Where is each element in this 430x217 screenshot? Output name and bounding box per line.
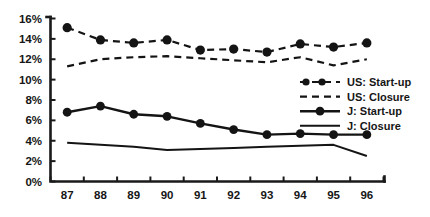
legend-item: J: Closure	[300, 120, 401, 132]
legend-marker-dot	[318, 78, 325, 85]
legend-marker-dot	[316, 107, 325, 116]
x-tick-label: 92	[227, 189, 240, 201]
x-tick-label: 88	[94, 189, 107, 201]
legend-item: US: Closure	[300, 91, 410, 103]
data-point-marker	[296, 129, 305, 138]
data-point-marker	[129, 38, 138, 47]
legend-item: US: Start-up	[300, 76, 411, 88]
data-point-marker	[329, 42, 338, 51]
data-point-marker	[362, 38, 371, 47]
y-tick-label: 14%	[19, 33, 42, 45]
x-tick-label: 94	[294, 189, 307, 201]
series-line	[67, 143, 367, 156]
y-tick-label: 12%	[19, 53, 42, 65]
y-axis-tick-labels: 0%2%4%6%8%10%12%14%16%	[19, 13, 42, 188]
series-line	[67, 28, 367, 52]
series-j-closure	[67, 143, 367, 156]
y-tick-label: 2%	[25, 155, 42, 167]
x-tick-label: 90	[161, 189, 174, 201]
legend-label: J: Closure	[347, 120, 401, 132]
data-point-marker	[263, 130, 272, 139]
chart-container: 0%2%4%6%8%10%12%14%16% 87888990919293949…	[0, 0, 430, 217]
line-chart: 0%2%4%6%8%10%12%14%16% 87888990919293949…	[0, 0, 430, 217]
data-point-marker	[129, 110, 138, 119]
series-group	[63, 23, 372, 156]
legend-item: J: Start-up	[300, 105, 402, 117]
data-point-marker	[96, 35, 105, 44]
data-point-marker	[163, 112, 172, 121]
data-point-marker	[229, 125, 238, 134]
y-tick-label: 6%	[25, 114, 42, 126]
series-line	[67, 56, 367, 66]
x-tick-label: 91	[194, 189, 207, 201]
legend-label: US: Start-up	[347, 76, 411, 88]
data-point-marker	[63, 23, 72, 32]
series-j-start-up	[63, 102, 372, 139]
data-point-marker	[296, 39, 305, 48]
data-point-marker	[262, 48, 271, 57]
legend-label: J: Start-up	[347, 105, 402, 117]
y-tick-label: 8%	[25, 94, 42, 106]
data-point-marker	[196, 119, 205, 128]
x-tick-label: 95	[327, 189, 340, 201]
x-tick-label: 93	[261, 189, 274, 201]
legend-marker-dot	[302, 78, 309, 85]
data-point-marker	[196, 45, 205, 54]
y-tick-label: 10%	[19, 74, 42, 86]
data-point-marker	[162, 35, 171, 44]
series-us-start-up	[63, 23, 372, 57]
x-axis-tick-labels: 87888990919293949596	[61, 189, 373, 201]
data-point-marker	[96, 102, 105, 111]
y-tick-label: 0%	[25, 176, 42, 188]
data-point-marker	[63, 108, 72, 117]
chart-legend: US: Start-upUS: ClosureJ: Start-upJ: Clo…	[300, 76, 411, 132]
x-tick-label: 87	[61, 189, 74, 201]
y-tick-label: 16%	[19, 13, 42, 25]
x-tick-label: 96	[360, 189, 373, 201]
data-point-marker	[329, 130, 338, 139]
x-tick-label: 89	[127, 189, 140, 201]
data-point-marker	[229, 44, 238, 53]
y-tick-label: 4%	[25, 135, 42, 147]
series-us-closure	[67, 56, 367, 66]
legend-label: US: Closure	[347, 91, 410, 103]
